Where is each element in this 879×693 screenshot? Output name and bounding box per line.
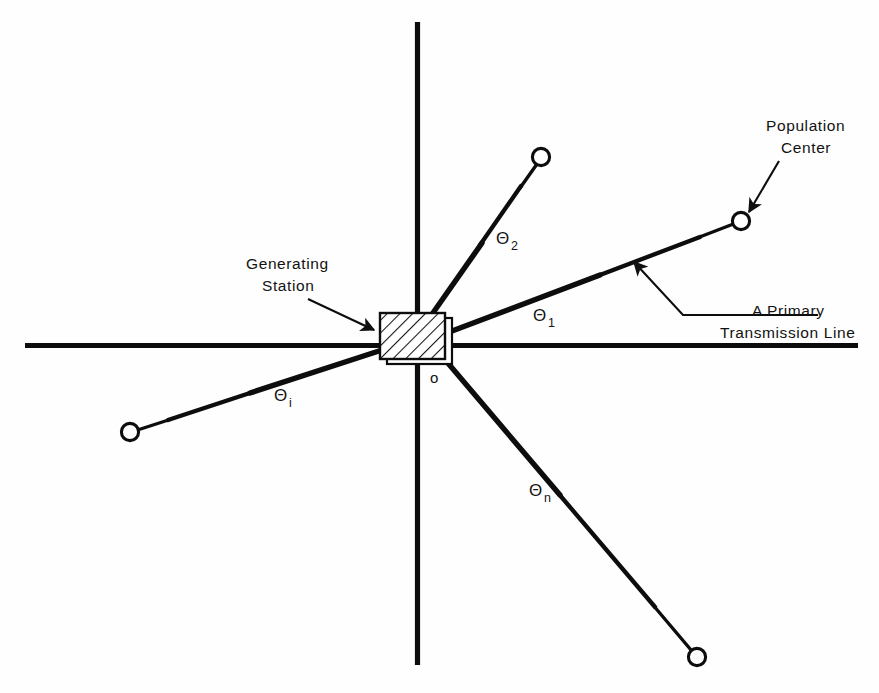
transmission-line-callout: A Primary Transmission Line <box>634 262 855 341</box>
line-i-segment-mid <box>168 392 253 420</box>
generating-station-box[interactable] <box>380 313 452 364</box>
angle-label-theta-1: Θ 1 <box>533 306 555 330</box>
transmission-line-i[interactable] <box>136 350 382 431</box>
theta-2-symbol: Θ <box>496 229 509 248</box>
angle-label-theta-i: Θ i <box>274 386 292 410</box>
line-1-segment-inner <box>452 275 600 331</box>
diagram-svg: o Θ 1 Θ 2 Θ i Θ n Generating Station <box>0 0 879 693</box>
node-n[interactable] <box>688 648 705 665</box>
generating-station-label-line-1: Generating <box>246 255 329 272</box>
theta-1-symbol: Θ <box>533 306 546 325</box>
population-center-nodes-group <box>121 148 749 665</box>
node-1[interactable] <box>732 212 749 229</box>
line-n-segment-mid <box>558 493 655 607</box>
node-2[interactable] <box>532 148 549 165</box>
generating-station-label-line-2: Station <box>262 277 314 294</box>
population-center-label-line-2: Center <box>781 139 831 156</box>
angle-label-theta-2: Θ 2 <box>496 229 518 253</box>
line-2-segment-inner <box>428 243 482 320</box>
population-center-label-line-1: Population <box>766 117 845 134</box>
node-i[interactable] <box>121 423 138 440</box>
line-2-segment-outer <box>520 164 537 188</box>
line-1-segment-outer <box>697 223 736 238</box>
theta-i-symbol: Θ <box>274 386 287 405</box>
transmission-line-leader-arrow <box>634 262 738 315</box>
population-center-leader-line <box>749 161 779 212</box>
transmission-line-label-line-2: Transmission Line <box>720 324 855 341</box>
theta-n-symbol: Θ <box>529 481 542 500</box>
transmission-line-n[interactable] <box>447 362 691 650</box>
theta-1-subscript: 1 <box>548 316 555 330</box>
line-1-segment-mid <box>596 237 700 277</box>
transmission-lines-group <box>136 164 736 650</box>
line-n-segment-outer <box>653 605 691 650</box>
theta-n-subscript: n <box>544 491 551 505</box>
generating-station-leader-line <box>308 299 374 330</box>
population-center-callout: Population Center <box>749 117 845 212</box>
origin-label: o <box>430 369 438 386</box>
theta-i-subscript: i <box>289 396 292 410</box>
generating-station-callout: Generating Station <box>246 255 374 330</box>
line-i-segment-inner <box>250 350 382 393</box>
transmission-line-label-line-1: A Primary <box>752 302 825 319</box>
figure-canvas: o Θ 1 Θ 2 Θ i Θ n Generating Station <box>0 0 879 693</box>
line-n-segment-inner <box>447 362 560 495</box>
line-i-segment-outer <box>136 420 170 431</box>
transmission-line-2[interactable] <box>428 164 537 320</box>
station-box-hatched-body <box>380 313 445 359</box>
theta-2-subscript: 2 <box>511 239 518 253</box>
